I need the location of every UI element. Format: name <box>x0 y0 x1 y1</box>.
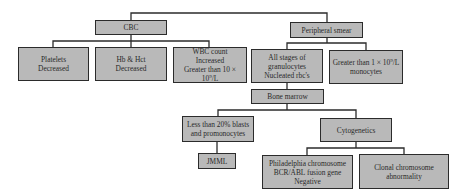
flowchart: CBC Peripheral smear Platelets Decreased… <box>0 0 469 196</box>
blasts-label: Less than 20% blasts and promonocytes <box>187 120 249 138</box>
cytogenetics-node: Cytogenetics <box>320 118 392 142</box>
clonal-node: Clonal chromosome abnormality <box>359 154 449 189</box>
wbc-label: WBC count Increased Greater than 10 × 10… <box>176 47 244 83</box>
hb-hct-label: Hb & Hct Decreased <box>116 55 147 73</box>
wbc-line3-suffix: /L <box>212 74 219 83</box>
blasts-node: Less than 20% blasts and promonocytes <box>182 116 254 142</box>
wbc-node: WBC count Increased Greater than 10 × 10… <box>173 47 247 83</box>
jmml-label: JMML <box>207 157 228 166</box>
clonal-label: Clonal chromosome abnormality <box>374 163 434 181</box>
bone-marrow-label: Bone marrow <box>267 92 307 101</box>
platelets-node: Platelets Decreased <box>18 47 89 81</box>
wbc-line3: Greater than 10 × 109/L <box>176 65 244 83</box>
hb-hct-node: Hb & Hct Decreased <box>95 47 167 81</box>
wbc-line1: WBC count <box>176 47 244 56</box>
cbc-node: CBC <box>95 20 167 35</box>
peripheral-smear-node: Peripheral smear <box>290 22 363 38</box>
all-stages-node: All stages of granulocytes Nucleated rbc… <box>251 49 323 83</box>
philadelphia-node: Philadelphia chromosome BCR/ABL fusion g… <box>262 155 353 189</box>
philadelphia-label: Philadelphia chromosome BCR/ABL fusion g… <box>269 159 346 186</box>
all-stages-label: All stages of granulocytes Nucleated rbc… <box>264 53 309 80</box>
monocytes-line2: monocytes <box>333 67 400 76</box>
bone-marrow-node: Bone marrow <box>251 89 324 104</box>
monocytes-line1: Greater than 1 × 109/L <box>333 58 400 67</box>
peripheral-smear-label: Peripheral smear <box>302 26 352 35</box>
monocytes-line1-prefix: Greater than 1 × 10 <box>333 58 391 67</box>
cytogenetics-label: Cytogenetics <box>337 126 376 135</box>
monocytes-line1-suffix: /L <box>393 58 400 67</box>
cbc-label: CBC <box>124 23 139 32</box>
platelets-label: Platelets Decreased <box>38 55 69 73</box>
jmml-node: JMML <box>198 153 236 169</box>
monocytes-node: Greater than 1 × 109/L monocytes <box>329 50 403 84</box>
wbc-line2: Increased <box>176 56 244 65</box>
monocytes-label: Greater than 1 × 109/L monocytes <box>333 58 400 76</box>
